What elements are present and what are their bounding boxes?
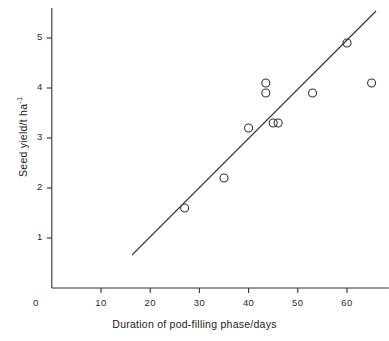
data-point-marker xyxy=(220,174,228,182)
data-point-marker xyxy=(274,119,282,127)
y-tick-label: 5 xyxy=(23,31,43,42)
scatter-chart-figure: 123450102030405060 Duration of pod-filli… xyxy=(0,0,389,341)
data-point-marker xyxy=(368,79,376,87)
tick-marks xyxy=(47,38,347,293)
data-point-marker xyxy=(181,204,189,212)
y-axis-title-text: Seed yield/t ha xyxy=(17,104,29,177)
y-axis-title: Seed yield/t ha-1 xyxy=(15,62,29,212)
data-point-marker xyxy=(245,124,253,132)
y-axis-title-exponent: -1 xyxy=(15,97,24,104)
axes xyxy=(52,8,389,288)
x-axis-title: Duration of pod-filling phase/days xyxy=(0,318,389,330)
data-points xyxy=(181,39,376,212)
data-point-marker xyxy=(309,89,317,97)
data-point-marker xyxy=(262,79,270,87)
y-tick-label: 1 xyxy=(23,231,43,242)
x-tick-label: 50 xyxy=(283,297,313,308)
x-tick-label: 40 xyxy=(234,297,264,308)
x-tick-label: 20 xyxy=(135,297,165,308)
fit-line xyxy=(132,11,376,255)
x-tick-label: 30 xyxy=(184,297,214,308)
regression-line xyxy=(132,11,376,255)
plot-canvas xyxy=(0,0,389,341)
x-tick-label: 60 xyxy=(332,297,362,308)
data-point-marker xyxy=(262,89,270,97)
x-tick-label: 10 xyxy=(86,297,116,308)
x-tick-label: 0 xyxy=(21,297,51,308)
